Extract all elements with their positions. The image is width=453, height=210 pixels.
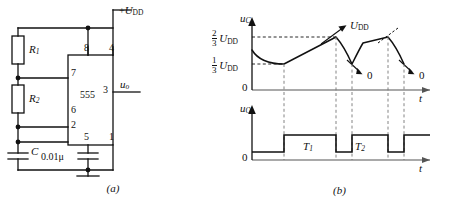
junction-dot-pin2 [16, 140, 21, 145]
uo-time-axis-label: t [419, 163, 422, 174]
junction-dot-r1-r2 [16, 76, 21, 81]
period-t1-label: T1 [303, 141, 313, 153]
subfigure-caption-b: (b) [226, 184, 453, 196]
pin-label-8: 8 [84, 42, 89, 53]
circuit-diagram: +UDD R1 R2 C 0.01μ 555 8 4 7 6 2 3 5 1 u… [0, 0, 226, 210]
junction-dot-ground [86, 168, 91, 173]
supply-label: +UDD [119, 5, 143, 17]
junction-dot-supply-rail [86, 26, 91, 31]
uo-axis-label: uO [240, 103, 251, 115]
uc-charge-target-label: UDD [350, 20, 369, 32]
pin-label-7: 7 [71, 67, 76, 78]
capacitor-c-label: C [31, 146, 38, 157]
pin-label-6: 6 [71, 104, 76, 115]
uc-charge-arrow-2-line [378, 28, 398, 43]
uc-charge-arrow-1-line [321, 27, 344, 44]
resistor-r2-body [12, 85, 24, 113]
resistor-r1-body [12, 36, 24, 64]
pin-label-4: 4 [109, 42, 114, 53]
uc-discharge-target-label-2: 0 [419, 70, 425, 81]
subfigure-caption-a: (a) [0, 182, 226, 194]
uc-axis-label: uC [240, 13, 251, 25]
resistor-r1-label: R1 [29, 44, 39, 56]
uc-discharge-target-label-1: 0 [367, 70, 373, 81]
figure-page: +UDD R1 R2 C 0.01μ 555 8 4 7 6 2 3 5 1 u… [0, 0, 453, 210]
waveform-diagram: uC 23 UDD 13 UDD 0 UDD 0 0 t uO 0 T1 T2 … [226, 0, 453, 210]
output-voltage-label: uo [120, 79, 129, 91]
resistor-r2-label: R2 [29, 93, 39, 105]
uc-waveform-path [252, 37, 404, 64]
capacitor-value-label: 0.01μ [41, 152, 64, 162]
uc-time-axis-label: t [419, 93, 422, 104]
pin-label-5: 5 [84, 131, 89, 142]
uc-time-axis-arrow [422, 87, 430, 93]
uc-low-threshold-label: 13 UDD [212, 56, 238, 75]
pin-label-3: 3 [103, 84, 108, 95]
junction-dot-pin6 [16, 125, 21, 130]
uo-origin-label: 0 [242, 152, 248, 163]
pin-label-1: 1 [109, 131, 114, 142]
uo-waveform-path [252, 135, 430, 152]
uc-origin-label: 0 [242, 82, 248, 93]
uo-time-axis-arrow [422, 157, 430, 163]
pin-label-2: 2 [71, 119, 76, 130]
period-t2-label: T2 [355, 141, 365, 153]
chip-555-label: 555 [80, 89, 95, 100]
uc-high-threshold-label: 23 UDD [212, 29, 238, 48]
